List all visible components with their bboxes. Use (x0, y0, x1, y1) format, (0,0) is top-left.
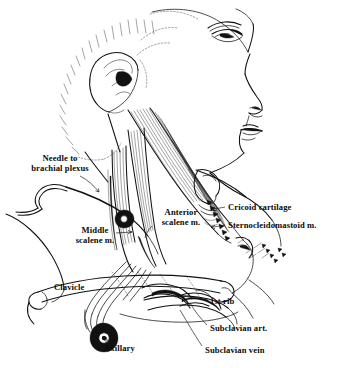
label-needle-line2: brachial plexus (31, 163, 89, 173)
label-cricoid-cartilage: Cricoid cartilage (228, 203, 292, 213)
head-profile (152, 9, 262, 173)
trapezius-hatching (238, 239, 286, 263)
clavicle (6, 214, 234, 324)
label-middle-scalene-line1: Middle (82, 225, 109, 235)
ear (90, 53, 138, 113)
anatomy-drawing (0, 0, 341, 368)
middle-scalene-muscle (108, 146, 135, 272)
label-clavicle: Clavicle (54, 283, 84, 293)
label-anterior-scalene-line2: scalene m. (162, 217, 201, 227)
anatomical-illustration: Needle to brachial plexus Middle scalene… (0, 0, 341, 368)
label-scm-text: Sternocleidomastoid m. (228, 220, 317, 230)
label-clavicle-text: Clavicle (54, 282, 84, 292)
label-subclavian-vein: Subclavian vein (205, 346, 265, 356)
label-axillary: Axillary (104, 344, 135, 354)
label-first-rib: 1st rib (210, 297, 234, 307)
label-axillary-text: Axillary (104, 343, 135, 353)
label-first-rib-text: 1st rib (210, 296, 234, 306)
label-subclavian-vein-text: Subclavian vein (205, 345, 265, 355)
label-needle-to-brachial-plexus: Needle to brachial plexus (14, 154, 106, 173)
eye (208, 22, 243, 42)
label-middle-scalene-line2: scalene m. (76, 235, 115, 245)
label-cricoid-text: Cricoid cartilage (228, 202, 292, 212)
label-middle-scalene: Middle scalene m. (70, 226, 120, 245)
label-anterior-scalene: Anterior scalene m. (155, 208, 207, 227)
label-subclavian-artery: Subclavian art. (210, 324, 267, 334)
label-sternocleidomastoid: Sternocleidomastoid m. (228, 221, 317, 231)
label-needle-line1: Needle to (42, 153, 77, 163)
anterior-scalene-muscle (128, 128, 166, 268)
leader-needle (80, 176, 99, 192)
brachial-plexus-trunks (85, 262, 151, 334)
label-subclavian-artery-text: Subclavian art. (210, 323, 267, 333)
label-anterior-scalene-line1: Anterior (165, 207, 198, 217)
